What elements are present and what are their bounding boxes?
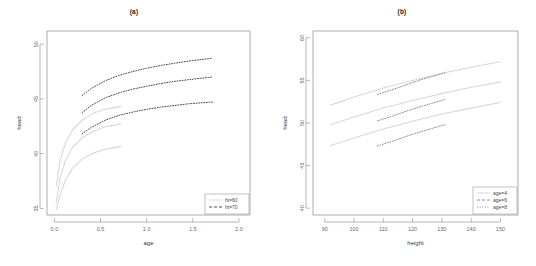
figure-container: (a) 504540350.00.51.01.52.0ageheadht=60h… — [0, 0, 536, 266]
series-curve — [377, 73, 444, 95]
series-curve — [331, 103, 501, 146]
y-tick-label: 45 — [33, 96, 39, 102]
y-tick-label: 40 — [299, 205, 305, 211]
y-tick-label: 60 — [299, 35, 305, 41]
y-tick-label: 50 — [299, 120, 305, 126]
panel-a: (a) 504540350.00.51.01.52.0ageheadht=60h… — [0, 0, 268, 266]
x-axis-label: height — [407, 240, 424, 246]
series-curve — [82, 102, 213, 134]
x-tick-label: 0.5 — [97, 226, 105, 232]
x-axis-label: age — [143, 240, 154, 246]
y-tick-label: 45 — [299, 163, 305, 169]
legend-label: age=6 — [493, 197, 507, 203]
y-tick-label: 35 — [33, 205, 39, 211]
x-tick-label: 1.0 — [143, 226, 151, 232]
legend-label: age=8 — [493, 204, 507, 210]
series-curve — [331, 62, 501, 105]
series-curve — [56, 124, 121, 202]
x-tick-label: 130 — [437, 226, 446, 232]
y-tick-label: 50 — [33, 41, 39, 47]
legend-label: age=4 — [493, 190, 507, 196]
panel-b: (b) 605550454090100110120130140150height… — [268, 0, 536, 266]
series-curve — [331, 82, 501, 125]
y-tick-label: 55 — [299, 77, 305, 83]
y-axis-label: head — [282, 116, 288, 129]
series-curve — [56, 107, 121, 187]
series-curve — [377, 100, 444, 121]
legend-label: ht=70 — [225, 204, 238, 210]
legend-label: ht=60 — [225, 197, 238, 203]
x-tick-label: 120 — [408, 226, 417, 232]
y-axis-label: head — [16, 116, 22, 129]
panel-a-plot: 504540350.00.51.01.52.0ageheadht=60ht=70 — [0, 0, 268, 266]
panel-b-plot: 605550454090100110120130140150heighthead… — [268, 0, 536, 266]
x-tick-label: 2.0 — [235, 226, 243, 232]
x-tick-label: 150 — [496, 226, 505, 232]
chart-legend: ht=60ht=70 — [205, 194, 249, 214]
series-curve — [82, 58, 211, 95]
y-tick-label: 40 — [33, 151, 39, 157]
x-tick-label: 100 — [349, 226, 358, 232]
x-tick-label: 90 — [322, 226, 328, 232]
chart-legend: age=4age=6age=8 — [473, 187, 517, 214]
series-curve — [56, 147, 121, 210]
x-tick-label: 110 — [379, 226, 388, 232]
x-tick-label: 1.5 — [189, 226, 197, 232]
x-tick-label: 140 — [467, 226, 476, 232]
x-tick-label: 0.0 — [51, 226, 59, 232]
